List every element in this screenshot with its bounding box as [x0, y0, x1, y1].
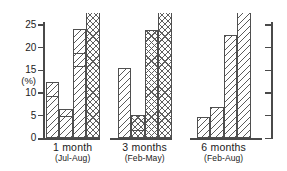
x-axis-baseline-group-2 [110, 138, 172, 140]
y-axis-tick-10 [38, 92, 44, 93]
y-axis-label-25: 25 [10, 20, 36, 30]
y-axis-tick-15 [38, 70, 44, 71]
right-axis-tick-5 [265, 115, 271, 116]
bar-group-2-item-2 [131, 115, 145, 138]
y-axis-label-20: 20 [10, 43, 36, 53]
x-axis-baseline-group-3 [190, 138, 262, 140]
bar-segment-divider-1-2-1 [60, 116, 72, 117]
y-axis-tick-25 [38, 24, 44, 25]
bar-group-1-item-3 [73, 29, 87, 138]
y-axis-tick-20 [38, 47, 44, 48]
bar-segment-divider-1-1-1 [47, 96, 59, 97]
y-axis-tick-5 [38, 115, 44, 116]
bar-segment-divider-2-2-1 [132, 130, 144, 131]
right-axis-tick-10 [265, 92, 271, 93]
right-axis-tick-20 [265, 47, 271, 48]
y-axis-label-15: 15 [10, 65, 36, 75]
bar-group-2-item-3 [145, 30, 159, 138]
y-axis-label-10: 10 [10, 88, 36, 98]
bar-group-3-item-3 [224, 35, 238, 139]
bar-segment-divider-1-3-2 [74, 53, 86, 54]
group-caption-3: 6 months(Feb-Aug) [179, 141, 269, 164]
group-label-3: 6 months [179, 141, 269, 153]
x-axis-baseline-group-1 [38, 138, 100, 140]
y-axis-line [43, 22, 45, 139]
right-axis-tick-15 [265, 70, 271, 71]
group-sublabel-2: (Feb-May) [100, 153, 190, 164]
group-label-2: 3 months [100, 141, 190, 153]
bar-group-3-item-2 [210, 107, 224, 138]
right-axis-tick-0 [265, 138, 271, 139]
bar-group-1-item-4 [86, 13, 100, 138]
bar-group-3-item-1 [197, 117, 211, 138]
bar-segment-divider-1-3-1 [74, 66, 86, 67]
y-axis-label-5: 5 [10, 111, 36, 121]
group-sublabel-3: (Feb-Aug) [179, 153, 269, 164]
bar-group-1-item-2 [59, 109, 73, 139]
bar-group-2-item-4 [158, 13, 172, 138]
bar-chart: 0510152025 (%) 1 month(Jul-Aug)3 months(… [0, 0, 287, 171]
right-axis-tick-25 [265, 24, 271, 25]
bar-group-1-item-1 [46, 82, 60, 138]
right-axis-line [271, 22, 273, 139]
bar-group-2-item-1 [118, 68, 132, 139]
bar-group-3-item-4 [237, 13, 251, 138]
group-caption-2: 3 months(Feb-May) [100, 141, 190, 164]
y-axis-unit-label: (%) [8, 76, 36, 86]
